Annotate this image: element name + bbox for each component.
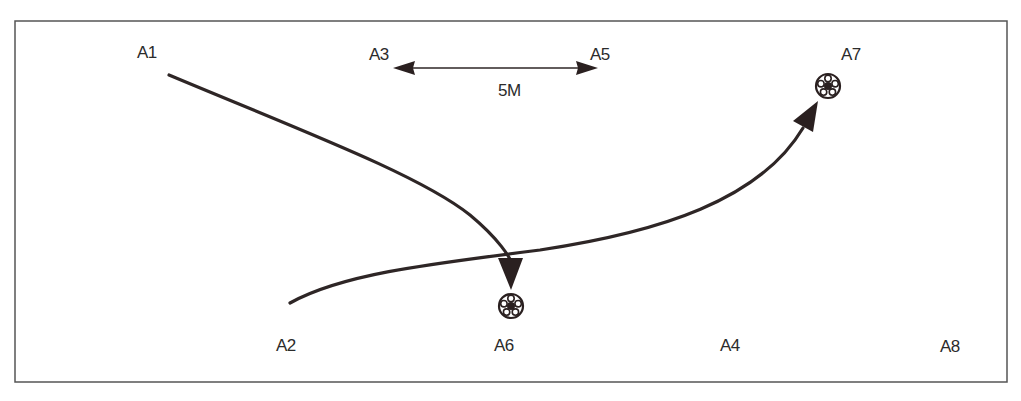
marker-label-a2: A2 (276, 337, 296, 354)
marker-label-a1: A1 (137, 44, 157, 61)
marker-label-a7: A7 (841, 46, 861, 63)
marker-label-a4: A4 (720, 337, 740, 354)
pass-path-a2-a7 (290, 128, 803, 303)
marker-label-a8: A8 (940, 338, 960, 355)
marker-label-a3: A3 (369, 46, 389, 63)
distance-label: 5M (498, 82, 521, 99)
arrowhead-up-right-icon (793, 101, 818, 132)
soccer-ball-icon (816, 74, 840, 98)
run-path-a1-a6 (169, 75, 511, 262)
marker-label-a6: A6 (494, 337, 514, 354)
distance-arrow (393, 61, 598, 75)
diagram-frame (15, 21, 1007, 382)
arrowhead-down-icon (498, 258, 523, 290)
arrowhead-left-icon (393, 61, 415, 75)
marker-label-a5: A5 (590, 46, 610, 63)
soccer-ball-icon (499, 294, 523, 318)
